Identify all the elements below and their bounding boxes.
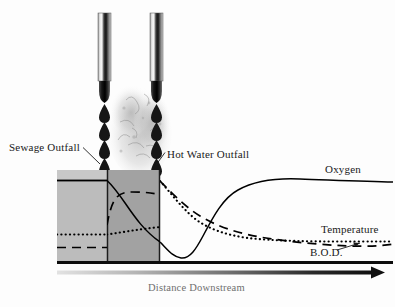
droplet-icon (99, 104, 110, 177)
label-sewage-outfall: Sewage Outfall (9, 141, 80, 153)
pipe-icon (98, 13, 111, 103)
leader-line-sewage (83, 148, 100, 165)
arrow-right-icon (57, 267, 385, 279)
pipe-icon (150, 13, 163, 103)
label-temperature: Temperature (321, 223, 379, 235)
label-hot-water-outfall: Hot Water Outfall (167, 148, 249, 160)
stream-pollution-diagram: Sewage Outfall Hot Water Outfall Oxygen … (0, 0, 395, 307)
label-oxygen: Oxygen (325, 163, 361, 175)
steam-cloud-icon (108, 84, 172, 178)
axis-label-distance-downstream: Distance Downstream (148, 282, 245, 293)
label-bod: B.O.D. (310, 246, 343, 258)
